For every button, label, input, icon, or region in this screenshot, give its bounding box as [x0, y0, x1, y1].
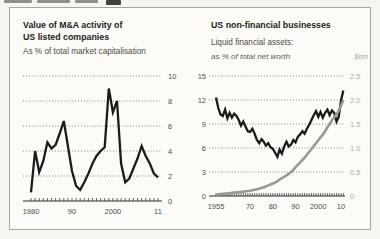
- right-axis-tick-label: 2: [168, 172, 172, 181]
- right-axis-tick-label: 10: [168, 72, 176, 81]
- figure-panel: Value of M&A activity of US listed compa…: [9, 7, 371, 230]
- left-axis-tick-label: 3: [202, 168, 206, 177]
- left-chart-title-line2: US listed companies: [23, 32, 198, 44]
- right-chart-right-axis-unit: $trn: [354, 52, 368, 61]
- x-axis-tick-label: 1980: [23, 207, 40, 216]
- clipped-word-mark: [4, 0, 32, 3]
- right-chart-left-axis-caption: as % of total net worth: [211, 52, 290, 61]
- right-chart-title: US non-financial businesses: [211, 20, 376, 32]
- left-chart-canvas: 0246810198090200011: [21, 69, 191, 219]
- x-axis-tick-label: 11: [154, 207, 162, 216]
- right-axis-tick-label: 1.5: [350, 120, 360, 129]
- clipped-word-mark: [75, 0, 98, 3]
- left-axis-tick-label: 9: [202, 120, 206, 129]
- right-chart-subtitle: Liquid financial assets:: [211, 37, 376, 48]
- x-axis-tick-label: 90: [291, 202, 299, 211]
- right-chart-canvas: 0030.561.091.5122.0152.51955708090200010: [199, 69, 372, 219]
- right-chart-axis-caption-row: as % of total net worth $trn: [211, 52, 368, 61]
- x-axis-tick-label: 80: [269, 202, 277, 211]
- right-axis-tick-label: 8: [168, 97, 172, 106]
- clipped-word-mark: [37, 0, 70, 3]
- x-axis-tick-label: 90: [68, 207, 76, 216]
- left-axis-tick-label: 0: [202, 192, 206, 201]
- x-axis-tick-label: 10: [337, 202, 345, 211]
- left-chart-title-line1: Value of M&A activity of: [23, 20, 198, 32]
- right-axis-tick-label: 4: [168, 147, 172, 156]
- right-axis-tick-label: 2.5: [350, 72, 360, 81]
- left-axis-tick-label: 15: [198, 72, 206, 81]
- left-chart-header: Value of M&A activity of US listed compa…: [23, 20, 198, 57]
- right-axis-tick-label: 0: [350, 192, 354, 201]
- right-axis-tick-label: 1.0: [350, 144, 360, 153]
- x-axis-tick-label: 1955: [208, 202, 225, 211]
- right-axis-tick-label: 6: [168, 122, 172, 131]
- right-axis-tick-label: 0: [168, 197, 172, 206]
- x-axis-tick-label: 70: [246, 202, 254, 211]
- right-axis-tick-label: 2.0: [350, 96, 360, 105]
- left-chart-subtitle: As % of total market capitalisation: [23, 46, 198, 57]
- x-axis-tick-label: 2000: [105, 207, 122, 216]
- right-axis-tick-label: 0.5: [350, 168, 360, 177]
- left-axis-tick-label: 6: [202, 144, 206, 153]
- clipped-word-mark: [106, 0, 121, 5]
- x-axis-tick-label: 2000: [310, 202, 327, 211]
- liquid-assets-as-of-total-net-worth-line: [216, 90, 343, 156]
- left-axis-tick-label: 12: [198, 96, 206, 105]
- m-a-value-as-of-total-market-capitalisation-line: [31, 89, 158, 193]
